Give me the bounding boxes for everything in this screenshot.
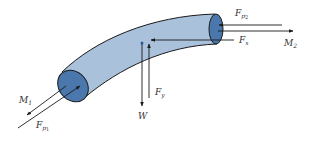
label-fy: Fy xyxy=(155,88,165,98)
label-m2: M2 xyxy=(284,39,297,49)
label-fp1: Fp1 xyxy=(36,121,49,132)
m1-arrow xyxy=(27,86,66,115)
label-m1: M1 xyxy=(19,96,32,106)
label-fx: Fx xyxy=(239,36,249,46)
label-w: W xyxy=(138,112,147,121)
label-fp2: Fp2 xyxy=(235,9,248,20)
pipe-end-right xyxy=(209,14,223,44)
